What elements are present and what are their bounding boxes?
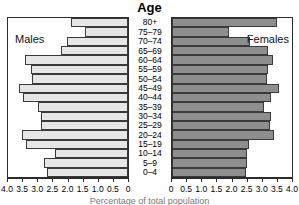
axis-tick (277, 178, 278, 182)
bar-row (172, 140, 292, 149)
axis-tick-label: 0.5 (107, 184, 119, 195)
male-bar-3539 (38, 102, 128, 111)
age-group-label: 25–29 (129, 121, 171, 130)
bar-row (8, 158, 128, 167)
bar-row (172, 158, 292, 167)
bar-row (172, 84, 292, 93)
axis-tick-label: 1.5 (210, 184, 222, 195)
axis-tick-label: 1.0 (92, 184, 104, 195)
bar-row (172, 112, 292, 121)
axis-tick-label: 2.5 (241, 184, 253, 195)
age-group-axis-labels: 80+75–7970–7465–6960–6455–5950–5445–4940… (129, 18, 171, 177)
bar-row (8, 65, 128, 74)
bar-row (8, 102, 128, 111)
female-bar-4549 (172, 84, 279, 93)
male-bar-1519 (26, 140, 128, 149)
axis-tick-label: 0 (126, 184, 131, 195)
bar-row (172, 93, 292, 102)
bar-row (8, 149, 128, 158)
female-bar-59 (172, 158, 247, 167)
population-pyramid-chart: Age Males Females 80+75–7970–7465–6960–6… (0, 0, 299, 205)
axis-tick (247, 178, 248, 182)
bar-row (172, 18, 292, 27)
axis-tick-label: 1.5 (77, 184, 89, 195)
bar-row (8, 121, 128, 130)
axis-tick (201, 178, 202, 182)
male-bar-5054 (32, 74, 128, 83)
female-bar-04 (172, 168, 246, 177)
bar-row (8, 168, 128, 177)
bar-row (172, 65, 292, 74)
axis-tick (171, 178, 172, 182)
male-bar-5559 (31, 65, 129, 74)
bar-row (8, 46, 128, 55)
male-bar-2529 (41, 121, 128, 130)
male-bar-80+ (71, 18, 128, 27)
bar-row (8, 140, 128, 149)
female-bar-3539 (172, 102, 264, 111)
age-group-label: 40–44 (129, 93, 171, 102)
male-bar-4044 (23, 93, 128, 102)
bar-row (172, 121, 292, 130)
axis-tick-label: 0 (169, 184, 174, 195)
female-bar-7074 (172, 37, 250, 46)
axis-tick (7, 178, 8, 182)
axis-tick-label: 3.5 (271, 184, 283, 195)
bar-row (172, 102, 292, 111)
axis-tick (216, 178, 217, 182)
female-bar-4044 (172, 93, 271, 102)
male-bar-59 (44, 158, 128, 167)
age-group-label: 10–14 (129, 149, 171, 158)
axis-tick-label: 4.0 (286, 184, 298, 195)
bar-row (8, 130, 128, 139)
bar-row (172, 149, 292, 158)
male-bar-2024 (22, 130, 129, 139)
bar-row (172, 168, 292, 177)
bar-row (172, 74, 292, 83)
axis-tick-label: 3.0 (31, 184, 43, 195)
axis-tick (52, 178, 53, 182)
female-bar-3034 (172, 112, 271, 121)
females-x-tick-labels: 00.51.01.52.02.53.03.54.0 (164, 184, 299, 196)
age-group-label: 55–59 (129, 65, 171, 74)
male-bar-6064 (25, 55, 129, 64)
bar-row (8, 84, 128, 93)
axis-tick (22, 178, 23, 182)
bar-row (172, 55, 292, 64)
x-axis-caption: Percentage of total population (0, 196, 299, 205)
axis-tick-label: 4.0 (1, 184, 13, 195)
male-bar-04 (47, 168, 128, 177)
female-bar-1014 (172, 149, 247, 158)
axis-tick (186, 178, 187, 182)
bar-row (172, 46, 292, 55)
bar-row (172, 130, 292, 139)
axis-tick (83, 178, 84, 182)
age-group-label: 70–74 (129, 37, 171, 46)
axis-tick-label: 3.0 (256, 184, 268, 195)
age-group-label: 80+ (129, 18, 171, 27)
bar-row (8, 55, 128, 64)
male-bar-6569 (61, 46, 129, 55)
female-bar-80+ (172, 18, 277, 27)
axis-tick (128, 178, 129, 182)
female-bar-6064 (172, 55, 273, 64)
bar-row (8, 18, 128, 27)
bar-row (8, 74, 128, 83)
axis-tick (292, 178, 293, 182)
male-bar-7074 (67, 37, 129, 46)
female-bar-5054 (172, 74, 267, 83)
female-bar-1519 (172, 140, 249, 149)
female-bar-7579 (172, 27, 229, 36)
males-panel-label: Males (15, 33, 44, 45)
axis-tick (232, 178, 233, 182)
females-panel-label: Females (247, 33, 289, 45)
female-bar-5559 (172, 65, 268, 74)
male-bar-3034 (41, 112, 128, 121)
axis-tick (113, 178, 114, 182)
female-bar-2529 (172, 121, 270, 130)
male-bar-7579 (85, 27, 129, 36)
axis-tick-label: 3.5 (16, 184, 28, 195)
axis-tick-label: 1.0 (195, 184, 207, 195)
axis-tick-label: 2.5 (46, 184, 58, 195)
axis-tick (37, 178, 38, 182)
